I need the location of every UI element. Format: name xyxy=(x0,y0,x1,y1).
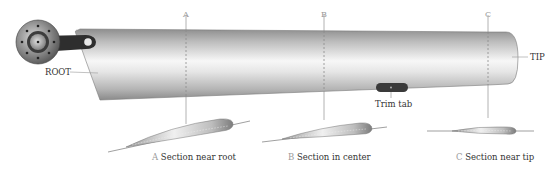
section-b-text: Section in center xyxy=(297,152,371,162)
rotor-hub xyxy=(16,20,60,64)
section-c-caption: C Section near tip xyxy=(456,153,534,162)
trim-tab-label: Trim tab xyxy=(375,100,412,109)
tip-label: TIP xyxy=(530,53,545,62)
root-label: ROOT xyxy=(45,68,71,77)
airfoil-section-a xyxy=(108,119,250,152)
section-c-letter: C xyxy=(456,152,463,162)
rotor-blade xyxy=(75,29,518,100)
airfoil-section-b xyxy=(262,123,387,142)
section-marker-c: C xyxy=(485,11,491,19)
section-a-letter: A xyxy=(152,152,158,162)
section-a-caption: A Section near root xyxy=(152,153,236,162)
section-a-text: Section near root xyxy=(161,152,236,162)
section-marker-b: B xyxy=(321,11,327,19)
rotor-blade-diagram: A B C ROOT TIP Trim tab A Section near r… xyxy=(0,0,557,169)
airfoil-section-c xyxy=(427,127,534,134)
section-b-letter: B xyxy=(288,152,294,162)
section-c-text: Section near tip xyxy=(465,152,534,162)
section-b-caption: B Section in center xyxy=(288,153,371,162)
trim-tab xyxy=(376,83,408,98)
section-marker-a: A xyxy=(183,11,189,19)
